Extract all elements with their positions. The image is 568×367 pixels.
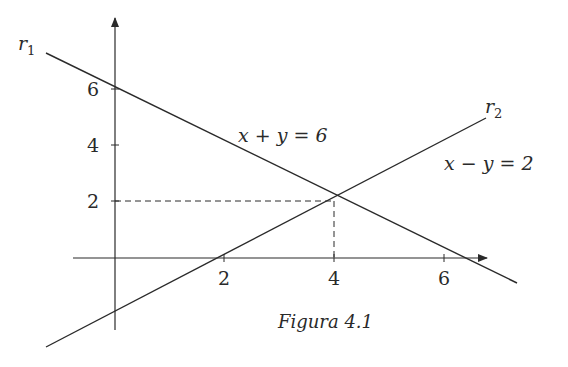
equation-r2: x − y = 2 <box>444 152 534 174</box>
figure-caption: Figura 4.1 <box>277 311 373 332</box>
equation-r1: x + y = 6 <box>238 124 328 146</box>
label-r2: r2 <box>485 95 502 121</box>
x-tick-label-6: 6 <box>438 267 450 289</box>
x-tick-label-4: 4 <box>328 267 340 289</box>
y-tick-label-2: 2 <box>87 190 99 212</box>
y-tick-label-4: 4 <box>87 134 99 156</box>
figure-canvas: r1 r2 x + y = 6 x − y = 2 6 4 2 2 4 6 Fi… <box>0 0 568 367</box>
y-tick-label-6: 6 <box>87 78 99 100</box>
label-r1: r1 <box>18 32 35 58</box>
x-tick-label-2: 2 <box>218 267 230 289</box>
line-r2 <box>46 118 486 347</box>
